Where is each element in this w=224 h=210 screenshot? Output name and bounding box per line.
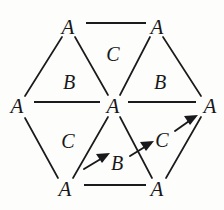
edge-topright-midright (163, 37, 201, 96)
vertex-label-center: A (105, 94, 120, 118)
vertex-label-top-right: A (149, 15, 164, 39)
face-label-upper-left: B (63, 71, 75, 93)
arrow-toward-lower-center-b (84, 153, 110, 169)
edge-midleft-bottomleft (25, 118, 58, 178)
face-label-upper-right: B (154, 71, 166, 93)
face-label-lower-center: B (111, 152, 123, 174)
vertex-label-bottom-right: A (149, 177, 164, 201)
vertex-label-bottom-left: A (57, 177, 72, 201)
edge-center-bottomleft (73, 117, 108, 178)
figure-canvas: A A A A A A A C B B C B C (0, 0, 224, 210)
hexagonal-lattice-diagram: A A A A A A A C B B C B C (0, 0, 224, 210)
edge-topleft-midleft (25, 37, 62, 96)
edge-topright-center (120, 37, 150, 95)
face-label-top-center: C (106, 43, 120, 65)
vertex-label-mid-right: A (202, 94, 217, 118)
vertex-label-top-left: A (60, 15, 75, 39)
face-label-lower-right: C (155, 129, 169, 151)
vertex-label-mid-left: A (9, 94, 24, 118)
annotation-arrow-group (84, 115, 198, 169)
edge-topleft-center (75, 37, 108, 95)
face-label-lower-left: C (61, 130, 75, 152)
